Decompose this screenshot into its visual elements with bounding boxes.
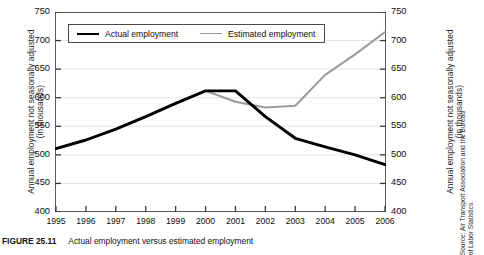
y-axis-label-left-450: 450 xyxy=(24,178,50,187)
y-axis-label-right-600: 600 xyxy=(391,93,417,102)
gridlines xyxy=(55,41,386,184)
y-axis-label-left-400: 400 xyxy=(24,207,50,216)
x-axis-label-1997: 1997 xyxy=(99,217,133,226)
figure-number: FIGURE 25.11 xyxy=(2,236,56,246)
legend-label-actual: Actual employment xyxy=(105,29,178,39)
y-axis-label-right-400: 400 xyxy=(391,207,417,216)
x-axis-label-2001: 2001 xyxy=(218,217,252,226)
y-axis-label-left-500: 500 xyxy=(24,150,50,159)
y-axis-label-left-650: 650 xyxy=(24,64,50,73)
legend-label-estimated: Estimated employment xyxy=(228,29,315,39)
x-axis-label-1998: 1998 xyxy=(129,217,163,226)
y-axis-label-right-700: 700 xyxy=(391,36,417,45)
legend-swatch-estimated-icon xyxy=(200,33,222,34)
figure-caption-text: Actual employment versus estimated emplo… xyxy=(68,236,253,246)
figure-caption: FIGURE 25.11 Actual employment versus es… xyxy=(2,236,482,246)
x-axis-label-2003: 2003 xyxy=(278,217,312,226)
x-axis-label-1999: 1999 xyxy=(159,217,193,226)
y-axis-label-left-750: 750 xyxy=(24,7,50,16)
y-axis-label-left-600: 600 xyxy=(24,93,50,102)
x-axis-label-2005: 2005 xyxy=(338,217,372,226)
y-axis-ticks-left xyxy=(55,12,61,212)
legend: Actual employment Estimated employment xyxy=(68,24,325,43)
x-axis-label-2006: 2006 xyxy=(368,217,402,226)
y-axis-label-right-550: 550 xyxy=(391,121,417,130)
y-axis-label-left-550: 550 xyxy=(24,121,50,130)
x-axis-label-1996: 1996 xyxy=(69,217,103,226)
y-axis-label-right-750: 750 xyxy=(391,7,417,16)
legend-item-actual-employment: Actual employment xyxy=(77,29,178,39)
source-note: Source: Air Transport Association and th… xyxy=(459,105,475,255)
x-axis-label-1995: 1995 xyxy=(39,217,73,226)
legend-item-estimated-employment: Estimated employment xyxy=(200,29,315,39)
series-line-actual-employment xyxy=(56,91,385,165)
x-axis-label-2000: 2000 xyxy=(189,217,223,226)
y-axis-label-right-650: 650 xyxy=(391,64,417,73)
y-axis-ticks-right xyxy=(380,12,386,212)
x-axis-label-2002: 2002 xyxy=(248,217,282,226)
x-axis-label-2004: 2004 xyxy=(308,217,342,226)
y-axis-label-left-700: 700 xyxy=(24,36,50,45)
y-axis-label-right-450: 450 xyxy=(391,178,417,187)
y-axis-label-right-500: 500 xyxy=(391,150,417,159)
x-axis-ticks xyxy=(56,206,385,212)
legend-swatch-actual-icon xyxy=(77,33,99,35)
